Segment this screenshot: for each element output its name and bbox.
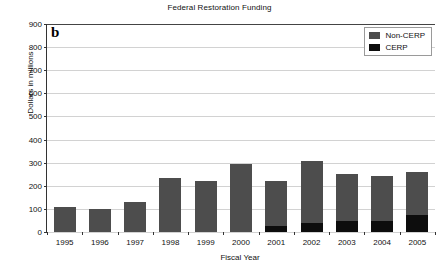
y-tick-label: 900 xyxy=(29,20,42,29)
x-tick-label-2002: 2002 xyxy=(303,238,321,247)
bar-segment-non-cerp xyxy=(265,181,287,226)
gridline xyxy=(47,232,435,233)
legend: Non-CERP CERP xyxy=(364,27,432,56)
y-tick-label: 600 xyxy=(29,89,42,98)
bar-segment-cerp xyxy=(336,221,358,232)
legend-swatch-cerp xyxy=(369,44,380,51)
y-tick-label: 700 xyxy=(29,66,42,75)
panel-label: b xyxy=(51,25,59,40)
x-tick-mark xyxy=(364,232,365,235)
x-tick-label-2001: 2001 xyxy=(267,238,285,247)
bar-segment-non-cerp xyxy=(406,172,428,215)
bar-segment-cerp xyxy=(406,215,428,232)
y-tick-label: 500 xyxy=(29,112,42,121)
bar-2003 xyxy=(336,174,358,232)
x-tick-label-2000: 2000 xyxy=(232,238,250,247)
chart-figure: Federal Restoration Funding Dollars in m… xyxy=(0,0,439,274)
bar-segment-non-cerp xyxy=(124,202,146,232)
y-tick-label: 400 xyxy=(29,135,42,144)
bar-1997 xyxy=(124,202,146,232)
x-tick-mark xyxy=(153,232,154,235)
y-tick-label: 0 xyxy=(38,228,42,237)
bar-segment-cerp xyxy=(301,223,323,232)
bar-segment-non-cerp xyxy=(195,181,217,232)
x-tick-label-2005: 2005 xyxy=(408,238,426,247)
x-tick-mark xyxy=(294,232,295,235)
bar-segment-non-cerp xyxy=(230,164,252,232)
x-tick-mark xyxy=(47,232,48,235)
bar-1996 xyxy=(89,209,111,232)
chart-title: Federal Restoration Funding xyxy=(0,3,439,12)
bar-segment-non-cerp xyxy=(89,209,111,232)
legend-item-cerp: CERP xyxy=(369,43,425,52)
bar-1999 xyxy=(195,181,217,232)
bar-2005 xyxy=(406,172,428,232)
bar-segment-non-cerp xyxy=(301,161,323,223)
bar-2001 xyxy=(265,181,287,232)
bar-segment-non-cerp xyxy=(159,178,181,232)
y-tick-label: 800 xyxy=(29,43,42,52)
x-tick-mark xyxy=(400,232,401,235)
y-tick-label: 100 xyxy=(29,204,42,213)
legend-label-cerp: CERP xyxy=(385,43,407,52)
x-tick-mark xyxy=(435,232,436,235)
bar-1998 xyxy=(159,178,181,232)
plot-area: 0100200300400500600700800900 19951996199… xyxy=(46,24,435,233)
x-tick-mark xyxy=(223,232,224,235)
legend-swatch-non-cerp xyxy=(369,32,380,39)
x-tick-label-1996: 1996 xyxy=(91,238,109,247)
x-tick-mark xyxy=(118,232,119,235)
x-tick-mark xyxy=(188,232,189,235)
x-tick-label-1997: 1997 xyxy=(126,238,144,247)
bar-2004 xyxy=(371,176,393,232)
bar-segment-cerp xyxy=(371,221,393,232)
bar-2000 xyxy=(230,164,252,232)
bar-segment-non-cerp xyxy=(336,174,358,221)
x-tick-label-1998: 1998 xyxy=(162,238,180,247)
bar-segment-cerp xyxy=(265,226,287,232)
bar-segment-non-cerp xyxy=(371,176,393,221)
x-tick-label-1999: 1999 xyxy=(197,238,215,247)
x-tick-label-1995: 1995 xyxy=(56,238,74,247)
y-tick-label: 200 xyxy=(29,181,42,190)
legend-item-non-cerp: Non-CERP xyxy=(369,31,425,40)
bar-2002 xyxy=(301,161,323,232)
x-axis-label: Fiscal Year xyxy=(46,253,434,262)
bar-segment-non-cerp xyxy=(54,207,76,232)
x-tick-mark xyxy=(259,232,260,235)
bar-1995 xyxy=(54,207,76,232)
x-tick-mark xyxy=(82,232,83,235)
legend-label-non-cerp: Non-CERP xyxy=(385,31,425,40)
x-tick-mark xyxy=(329,232,330,235)
x-tick-label-2004: 2004 xyxy=(373,238,391,247)
x-tick-label-2003: 2003 xyxy=(338,238,356,247)
y-tick-label: 300 xyxy=(29,158,42,167)
